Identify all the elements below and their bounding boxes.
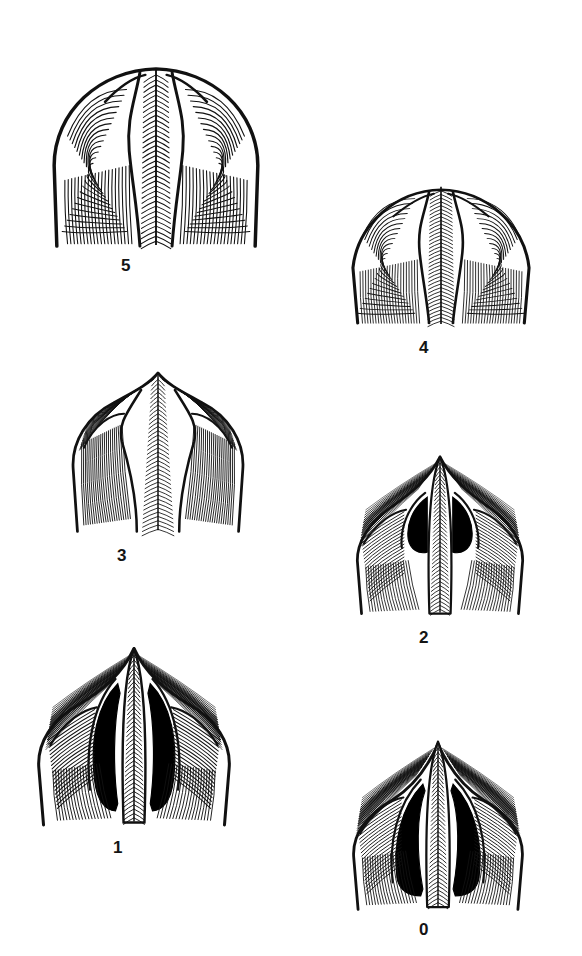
specimen-drawing-4 bbox=[322, 165, 560, 333]
specimen-drawing-3 bbox=[52, 358, 264, 540]
specimen-figure-2 bbox=[334, 442, 546, 622]
specimen-label-3: 3 bbox=[92, 546, 152, 566]
specimen-drawing-2 bbox=[334, 442, 546, 622]
specimen-label-2: 2 bbox=[394, 628, 454, 648]
specimen-drawing-1 bbox=[18, 632, 250, 832]
specimen-figure-0 bbox=[330, 726, 546, 916]
specimen-label-0: 0 bbox=[394, 920, 454, 940]
specimen-figure-4 bbox=[322, 165, 560, 333]
specimen-figure-3 bbox=[52, 358, 264, 540]
illustration-plate: 543210 bbox=[0, 0, 582, 956]
specimen-figure-1 bbox=[18, 632, 250, 832]
specimen-figure-5 bbox=[22, 48, 290, 256]
specimen-drawing-5 bbox=[22, 48, 290, 256]
specimen-drawing-0 bbox=[330, 726, 546, 916]
specimen-label-4: 4 bbox=[394, 338, 454, 358]
specimen-label-1: 1 bbox=[88, 838, 148, 858]
specimen-label-5: 5 bbox=[96, 256, 156, 276]
